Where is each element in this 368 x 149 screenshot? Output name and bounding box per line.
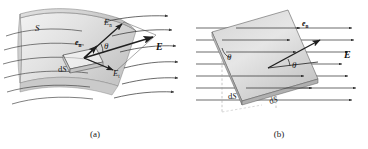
label-surface-S: S	[35, 23, 40, 33]
label-E-a: E	[155, 41, 163, 52]
panel-a: S dS En Et en θ E (a)	[3, 9, 178, 139]
projection-dash-base-b	[222, 105, 262, 112]
surface-left-edge	[18, 14, 22, 83]
label-dS-projected-b: dS	[228, 91, 237, 101]
label-theta-a: θ	[104, 41, 109, 51]
caption-b: (b)	[274, 129, 285, 139]
label-E-b: E	[343, 49, 351, 60]
physics-figure-svg: S dS En Et en θ E (a)	[0, 0, 368, 149]
label-theta-right-b: θ	[292, 60, 297, 70]
figure-container: S dS En Et en θ E (a)	[0, 0, 368, 149]
label-en-b: en	[302, 19, 309, 29]
field-line	[12, 97, 93, 104]
field-line-arrow	[114, 92, 174, 98]
caption-a: (a)	[90, 129, 100, 139]
field-line-arrow	[122, 78, 178, 84]
field-line-arrow	[124, 62, 178, 68]
panel-b: en E θ θ dS dS (b)	[196, 10, 356, 139]
label-theta-left-b: θ	[227, 52, 232, 62]
label-dS-a: dS	[58, 64, 67, 74]
